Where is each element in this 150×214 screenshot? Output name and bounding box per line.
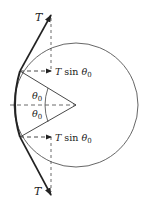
label-component-top: T sin θ0 — [55, 66, 92, 79]
label-component-bottom: T sin θ0 — [55, 132, 92, 145]
label-angle-top: θ0 — [32, 90, 42, 103]
label-tension-top: T — [35, 11, 44, 24]
tension-diagram: T T T sin θ0 T sin θ0 θ0 θ0 — [0, 0, 150, 214]
label-tension-bottom: T — [34, 185, 43, 198]
label-angle-bottom: θ0 — [32, 108, 42, 121]
diagram-canvas: T T T sin θ0 T sin θ0 θ0 θ0 — [0, 0, 150, 214]
